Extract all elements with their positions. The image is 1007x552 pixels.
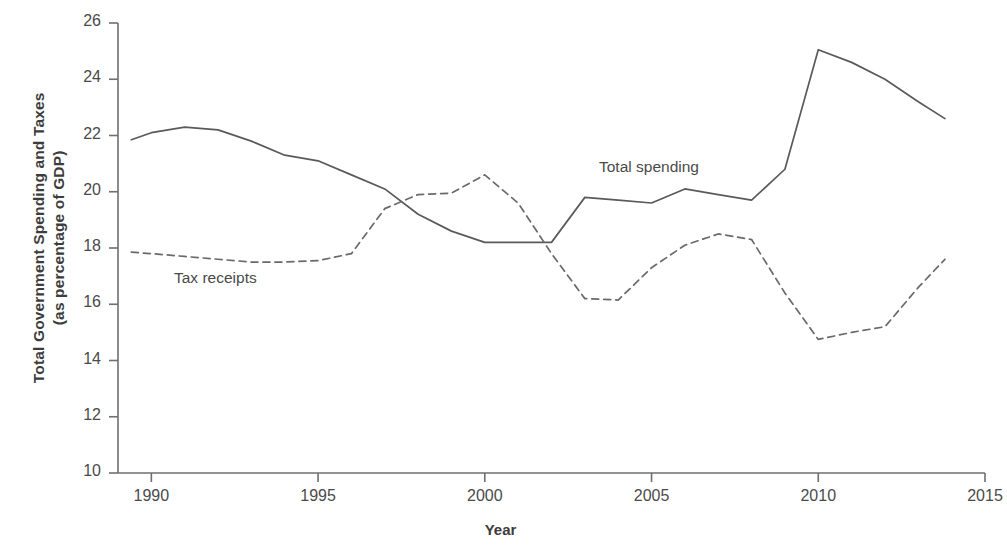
x-tick-label: 2015 xyxy=(945,487,1007,505)
y-axis-title: Total Government Spending and Taxes (as … xyxy=(29,3,69,473)
x-tick-label: 1990 xyxy=(111,487,191,505)
series-label-total-spending: Total spending xyxy=(599,158,699,176)
x-axis-title: Year xyxy=(0,521,1001,538)
series-line-tax-receipts xyxy=(131,175,945,340)
series-label-tax-receipts: Tax receipts xyxy=(174,269,257,287)
x-axis-ticks xyxy=(151,473,985,482)
x-tick-label: 2005 xyxy=(612,487,692,505)
x-tick-label: 2000 xyxy=(445,487,525,505)
y-axis-ticks xyxy=(109,23,118,473)
y-axis-title-line1: Total Government Spending and Taxes xyxy=(29,3,49,473)
y-axis-title-line2: (as percentage of GDP) xyxy=(49,3,69,473)
x-tick-label: 2010 xyxy=(778,487,858,505)
series-line-total-spending xyxy=(131,50,945,243)
x-tick-label: 1995 xyxy=(278,487,358,505)
